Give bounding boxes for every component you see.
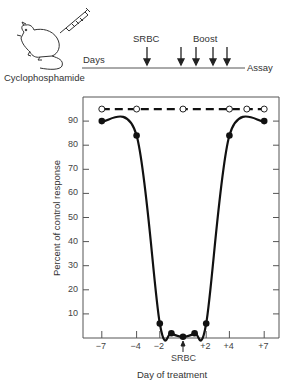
x-tick-label: +4 (223, 341, 233, 351)
treated-data-point (157, 320, 164, 327)
series-layer (99, 106, 268, 340)
x-tick-label: −7 (96, 341, 106, 351)
y-axis-title: Percent of control response (51, 160, 62, 276)
treated-data-point (133, 132, 140, 139)
control-data-point (261, 106, 267, 112)
y-tick-label: 70 (68, 163, 78, 173)
x-tick-label: −2 (154, 341, 164, 351)
x-tick-label: −4 (131, 341, 141, 351)
chart-frame (83, 97, 279, 338)
y-axis-ticks (83, 121, 279, 314)
treated-data-point (191, 330, 198, 337)
control-data-point (134, 106, 140, 112)
srbc-up-arrow-icon (181, 341, 185, 352)
x-axis-annotation-srbc: SRBC (171, 353, 196, 363)
treated-data-point (180, 333, 187, 340)
y-tick-label: 80 (68, 139, 78, 149)
treated-data-point (203, 320, 210, 327)
x-axis-title: Day of treatment (137, 369, 207, 380)
control-data-point (180, 106, 186, 112)
y-tick-label: 50 (68, 212, 78, 222)
treated-data-point (261, 118, 268, 125)
y-tick-label: 40 (68, 236, 78, 246)
control-data-point (226, 106, 232, 112)
treated-data-point (99, 118, 106, 125)
treated-series-line (102, 116, 264, 340)
treated-data-point (168, 330, 175, 337)
y-tick-label: 60 (68, 187, 78, 197)
control-data-point (99, 106, 105, 112)
control-data-point (244, 106, 250, 112)
treated-data-point (226, 132, 233, 139)
y-tick-label: 10 (68, 308, 78, 318)
response-chart (0, 0, 286, 381)
x-tick-label: +2 (200, 341, 210, 351)
y-tick-label: 90 (68, 115, 78, 125)
y-tick-label: 20 (68, 284, 78, 294)
y-tick-label: 30 (68, 260, 78, 270)
x-tick-label: +7 (258, 341, 268, 351)
